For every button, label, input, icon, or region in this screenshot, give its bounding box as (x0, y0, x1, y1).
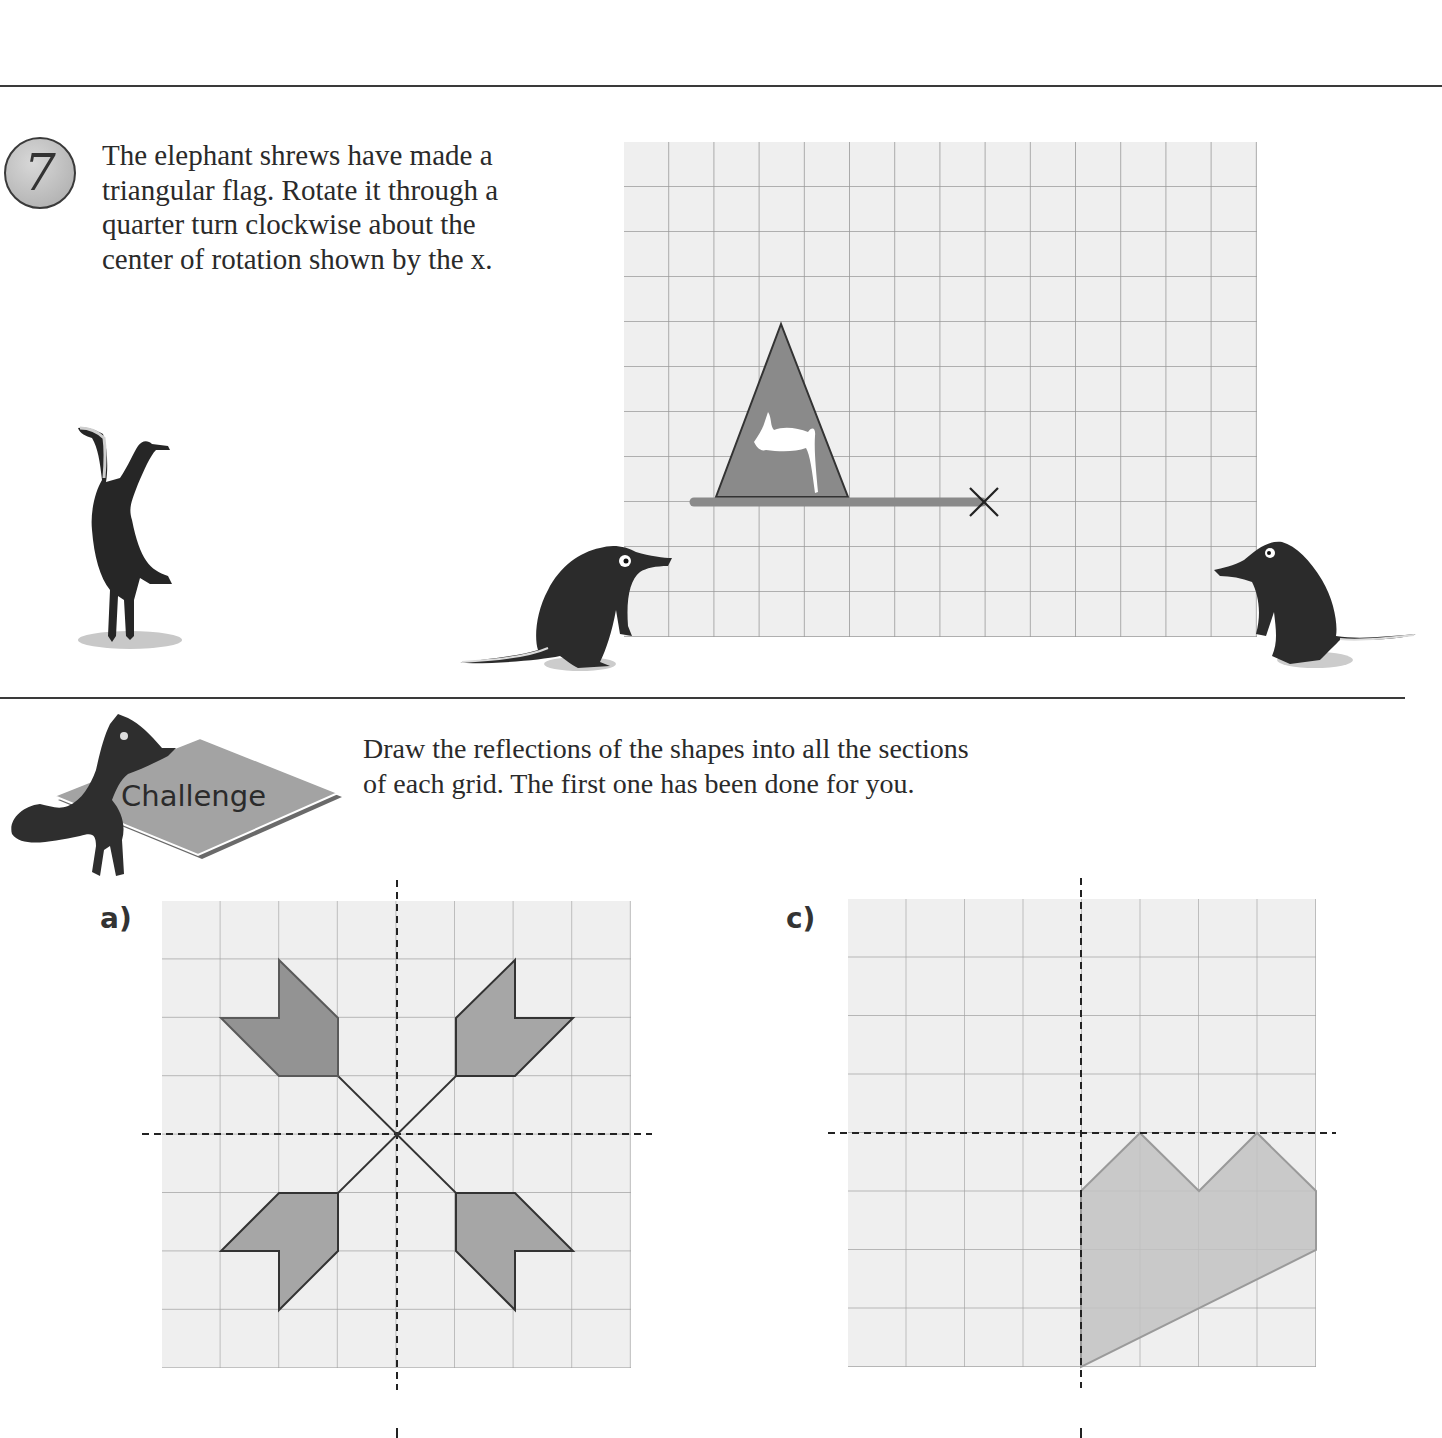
grid-label-c: c) (786, 902, 815, 935)
grid-label-a: a) (100, 902, 132, 935)
reflection-grid-a[interactable] (142, 880, 652, 1390)
worksheet-graphics: Challenge (0, 0, 1442, 1438)
rotation-grid[interactable] (624, 142, 1257, 637)
challenge-line: Draw the reflections of the shapes into … (363, 731, 1083, 766)
handstand-shrew-illustration (78, 427, 182, 649)
reflection-grid-c[interactable] (828, 878, 1336, 1388)
challenge-badge-label: Challenge (121, 779, 266, 813)
challenge-instructions: Draw the reflections of the shapes into … (363, 731, 1083, 801)
challenge-line: of each grid. The first one has been don… (363, 766, 1083, 801)
